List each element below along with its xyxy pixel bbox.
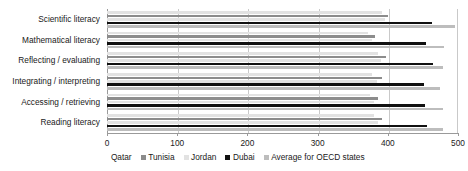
x-axis-tick-label: 200 xyxy=(240,137,254,149)
bar-dubai xyxy=(107,125,427,128)
bar-tunisia xyxy=(107,97,378,100)
x-axis-tick xyxy=(388,133,389,136)
legend-swatch-icon xyxy=(225,155,230,160)
bar-tunisia xyxy=(107,15,388,18)
legend-item-qatar[interactable]: Qatar xyxy=(103,152,131,162)
y-axis-label: Integrating / interpreting xyxy=(0,71,104,92)
bar-jordan xyxy=(107,18,385,21)
bar-oecd xyxy=(107,46,444,49)
x-axis-tick-label: 400 xyxy=(381,137,395,149)
bar-dubai xyxy=(107,83,424,86)
bar-tunisia xyxy=(107,77,382,80)
x-axis-tick-label: 300 xyxy=(311,137,325,149)
x-axis-tick xyxy=(107,133,108,136)
y-axis-labels: Scientific literacy Mathematical literac… xyxy=(0,9,104,133)
bar-jordan xyxy=(107,80,377,83)
legend-swatch-icon xyxy=(103,155,108,160)
bar-tunisia xyxy=(107,35,375,38)
bar-oecd xyxy=(107,25,455,28)
chart-legend: Qatar Tunisia Jordan Dubai Average for O… xyxy=(0,152,468,162)
legend-item-dubai[interactable]: Dubai xyxy=(225,152,254,162)
bar-group xyxy=(107,71,458,92)
bar-chart: Scientific literacy Mathematical literac… xyxy=(0,0,468,171)
y-axis-label: Scientific literacy xyxy=(0,9,104,30)
legend-swatch-icon xyxy=(141,155,146,160)
bar-dubai xyxy=(107,63,433,66)
y-axis-label: Mathematical literacy xyxy=(0,30,104,51)
bar-qatar xyxy=(107,11,382,14)
bar-oecd xyxy=(107,108,443,111)
bar-groups xyxy=(107,9,458,133)
x-axis-tick-label: 0 xyxy=(105,137,110,149)
legend-label: Dubai xyxy=(233,152,255,162)
bar-dubai xyxy=(107,42,426,45)
bar-oecd xyxy=(107,87,440,90)
y-axis-label: Reading literacy xyxy=(0,112,104,133)
x-axis-tick xyxy=(247,133,248,136)
bar-group xyxy=(107,30,458,51)
bar-tunisia xyxy=(107,118,382,121)
bar-qatar xyxy=(107,73,372,76)
bar-dubai xyxy=(107,104,425,107)
bar-group xyxy=(107,9,458,30)
bar-oecd xyxy=(107,66,443,69)
x-axis-tick-label: 100 xyxy=(170,137,184,149)
legend-item-tunisia[interactable]: Tunisia xyxy=(141,152,175,162)
legend-item-oecd[interactable]: Average for OECD states xyxy=(264,152,365,162)
y-axis-label: Accessing / retrieving xyxy=(0,92,104,113)
bar-qatar xyxy=(107,94,370,97)
legend-label: Average for OECD states xyxy=(271,152,364,162)
x-axis-tick-labels: 0100200300400500 xyxy=(0,137,468,149)
bar-dubai xyxy=(107,22,432,25)
legend-label: Qatar xyxy=(111,152,132,162)
legend-label: Tunisia xyxy=(148,152,174,162)
bar-jordan xyxy=(107,101,374,104)
bar-jordan xyxy=(107,121,378,124)
x-axis-line xyxy=(107,133,459,134)
legend-swatch-icon xyxy=(264,155,269,160)
x-axis-tick xyxy=(318,133,319,136)
bar-jordan xyxy=(107,59,381,62)
y-axis-label: Reflecting / evaluating xyxy=(0,50,104,71)
x-axis-tick xyxy=(177,133,178,136)
bar-group xyxy=(107,92,458,113)
bar-tunisia xyxy=(107,56,386,59)
legend-swatch-icon xyxy=(184,155,189,160)
bar-qatar xyxy=(107,114,374,117)
x-axis-tick xyxy=(458,133,459,136)
bar-oecd xyxy=(107,128,443,131)
legend-item-jordan[interactable]: Jordan xyxy=(184,152,217,162)
bar-jordan xyxy=(107,39,372,42)
legend-label: Jordan xyxy=(191,152,216,162)
bar-qatar xyxy=(107,32,368,35)
x-axis-tick-label: 500 xyxy=(451,137,465,149)
bar-group xyxy=(107,50,458,71)
bar-qatar xyxy=(107,52,378,55)
bar-group xyxy=(107,112,458,133)
